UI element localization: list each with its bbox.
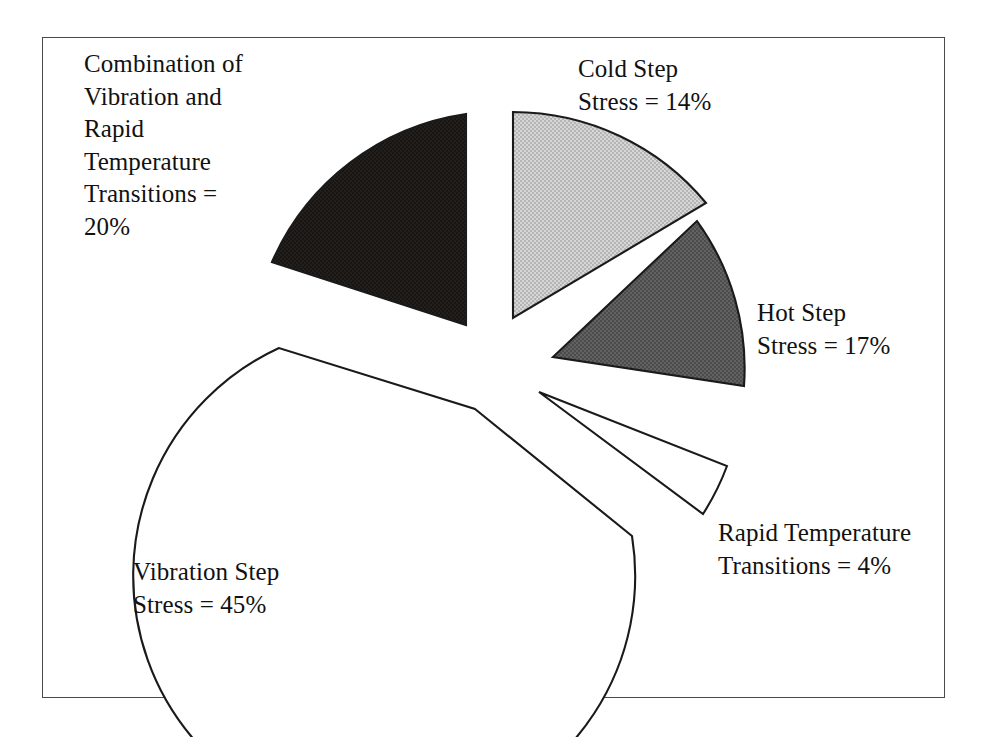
figure-root: Combination of Vibration and Rapid Tempe…: [0, 0, 981, 737]
pie-label-hot-step: Hot Step Stress = 17%: [757, 297, 981, 362]
pie-label-vibration-step: Vibration Step Stress = 45%: [133, 556, 383, 621]
pie-label-cold-step: Cold Step Stress = 14%: [578, 53, 838, 118]
pie-label-combination: Combination of Vibration and Rapid Tempe…: [84, 48, 319, 243]
pie-label-rapid-temperature-transitions: Rapid Temperature Transitions = 4%: [718, 517, 968, 582]
